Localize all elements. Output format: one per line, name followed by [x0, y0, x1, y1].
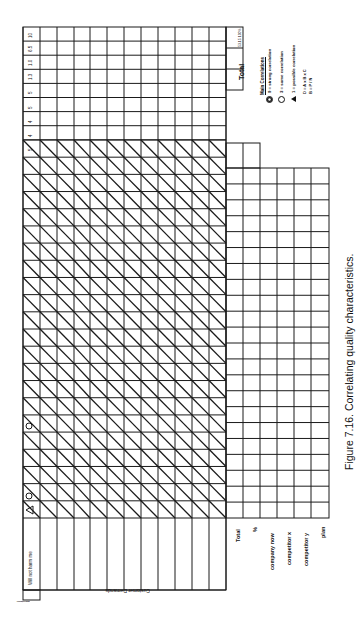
- correlation-matrix-grid: [0, 0, 364, 632]
- legend-title: Main Correlations: [260, 57, 265, 95]
- importance-value: 1.0: [28, 60, 33, 66]
- formula-b: B = P / N: [308, 78, 313, 94]
- total-label: Total: [238, 64, 245, 80]
- first-demand-label: Will not harm me: [28, 551, 33, 585]
- row-label-plan: plan: [320, 527, 326, 538]
- legend-item-possible: 1 = possible correlation: [291, 45, 296, 93]
- formula-d: D = A x B x C: [302, 69, 307, 94]
- importance-value: 1.3: [28, 74, 33, 80]
- strong-correlation-icon: [266, 96, 273, 103]
- legend-item-some: 3 = some correlation: [279, 51, 284, 93]
- row-label-company-now: company now: [269, 533, 275, 570]
- total-value: 53.15 100%: [238, 28, 242, 47]
- row-label-total: Total: [235, 529, 241, 542]
- importance-value: 4: [28, 134, 33, 137]
- importance-value: 5: [28, 148, 33, 151]
- importance-value: 10: [28, 33, 33, 38]
- customer-demands-title: Customer Demands: [106, 588, 150, 594]
- importance-value: 4: [28, 120, 33, 123]
- row-label-competitor-y: competitor y: [303, 533, 309, 566]
- row-label-competitor-x: competitor x: [286, 532, 292, 565]
- importance-corner-label: Importance: [17, 600, 30, 603]
- row-label-percent: %: [252, 527, 258, 532]
- possible-correlation-icon: [291, 96, 296, 102]
- some-correlation-icon: [278, 96, 285, 103]
- importance-value: 5: [28, 106, 33, 109]
- legend-item-strong: 9 = strong correlation: [267, 49, 272, 93]
- importance-value: 6.5: [28, 46, 33, 52]
- figure-caption: Figure 7.16. Correlating quality charact…: [343, 253, 355, 470]
